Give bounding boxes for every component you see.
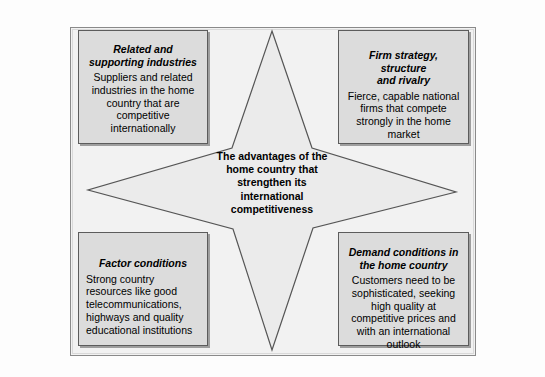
box-body: Suppliers and related industries in the … [86,71,200,135]
box-demand-conditions[interactable]: Demand conditions in the home country Cu… [338,232,469,346]
diagram-canvas: The advantages of the home country that … [0,0,545,377]
box-factor-conditions[interactable]: Factor conditions Strong country resourc… [78,232,208,346]
box-title: Firm strategy, structure and rivalry [346,37,461,87]
box-title: Related and supporting industries [86,37,200,68]
box-body: Customers need to be sophisticated, seek… [346,274,461,351]
box-firm-strategy-structure-rivalry[interactable]: Firm strategy, structure and rivalry Fie… [338,30,469,144]
center-advantages-text: The advantages of the home country that … [186,150,358,216]
box-related-supporting-industries[interactable]: Related and supporting industries Suppli… [78,30,208,144]
box-body: Strong country resources like good telec… [86,273,200,337]
box-title: Demand conditions in the home country [346,239,461,271]
box-body: Fierce, capable national firms that comp… [346,90,461,141]
box-title: Factor conditions [86,239,200,270]
